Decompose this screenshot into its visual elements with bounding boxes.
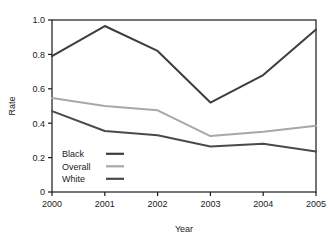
x-axis-title: Year <box>175 224 193 234</box>
x-tick-label: 2003 <box>200 199 220 209</box>
x-tick-label: 2002 <box>148 199 168 209</box>
x-tick-label: 2000 <box>42 199 62 209</box>
x-tick-label: 2004 <box>253 199 273 209</box>
chart-figure: 00.20.40.60.81.0 20002001200220032004200… <box>0 0 328 242</box>
y-tick-label: 0 <box>40 187 45 197</box>
y-tick-label: 0.4 <box>32 119 45 129</box>
line-chart: 00.20.40.60.81.0 20002001200220032004200… <box>0 0 328 242</box>
y-tick-label: 0.6 <box>32 84 45 94</box>
y-tick-label: 1.0 <box>32 15 45 25</box>
y-tick-label: 0.2 <box>32 153 45 163</box>
x-tick-label: 2001 <box>95 199 115 209</box>
legend-label-white: White <box>62 174 85 184</box>
x-tick-label: 2005 <box>306 199 326 209</box>
y-axis-title: Rate <box>7 96 17 115</box>
legend-label-overall: Overall <box>62 162 91 172</box>
y-tick-label: 0.8 <box>32 50 45 60</box>
legend-label-black: Black <box>62 149 85 159</box>
